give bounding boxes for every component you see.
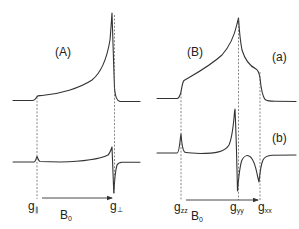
panel-a: (A) g∥ g⊥ B0 xyxy=(13,13,140,222)
g-parallel-label: g∥ xyxy=(28,199,39,214)
g-yy-label: gyy xyxy=(230,200,244,215)
panel-b-label: (B) xyxy=(187,45,203,59)
epr-spectra-diagram: (A) g∥ g⊥ B0 (B) (a) (b) gzz gyy gxx xyxy=(0,0,299,229)
trace-b-label: (b) xyxy=(272,131,287,145)
g-perpendicular-label: g⊥ xyxy=(110,199,123,213)
g-xx-label: gxx xyxy=(258,200,272,214)
g-zz-label: gzz xyxy=(174,200,188,214)
panel-b: (B) (a) (b) gzz gyy gxx B0 xyxy=(157,18,296,223)
panel-a-absorption-trace xyxy=(13,13,140,102)
panel-b-field-label: B0 xyxy=(191,209,203,223)
panel-b-derivative-trace xyxy=(157,109,296,191)
panel-a-field-label: B0 xyxy=(60,208,72,222)
trace-a-label: (a) xyxy=(272,50,287,64)
panel-a-derivative-trace xyxy=(13,147,140,193)
panel-a-label: (A) xyxy=(55,45,71,59)
